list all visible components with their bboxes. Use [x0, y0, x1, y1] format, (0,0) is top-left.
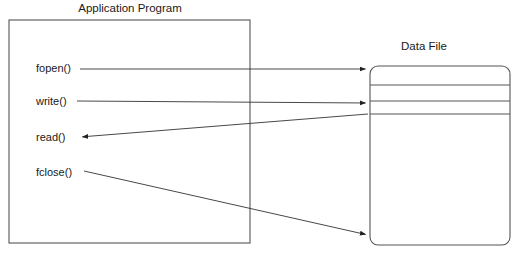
- call-label-fopen: fopen(): [36, 62, 71, 74]
- flow-arrow-fclose: [84, 171, 366, 234]
- file-io-diagram: Application Program Data File fopen() wr…: [0, 0, 520, 257]
- data-file-box: [370, 66, 510, 245]
- flow-arrow-read: [82, 114, 368, 137]
- call-label-read: read(): [36, 131, 65, 143]
- call-label-write: write(): [35, 95, 67, 107]
- call-label-fclose: fclose(): [36, 166, 72, 178]
- data-file-title: Data File: [401, 40, 447, 52]
- flow-arrow-write: [77, 101, 366, 103]
- application-program-title: Application Program: [78, 2, 182, 14]
- diagram-canvas: Application Program Data File fopen() wr…: [0, 0, 520, 257]
